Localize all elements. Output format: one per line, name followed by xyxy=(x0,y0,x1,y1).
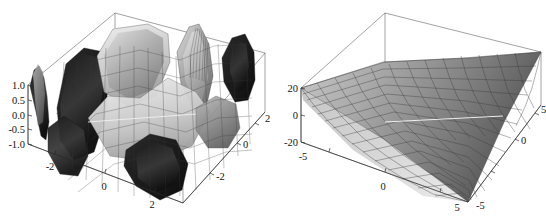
left-z-tick-4: -0.5 xyxy=(8,124,25,135)
right-z-tick-1: 20 xyxy=(288,83,299,94)
left-plot-z-axis xyxy=(28,85,32,145)
left-x-tick-3: 2 xyxy=(149,199,154,210)
right-y-tick-1: 5 xyxy=(541,104,546,115)
left-y-tick-2: 0 xyxy=(243,139,248,150)
figure-container: 1.0 0.5 0.0 -0.5 -1.0 -2 0 2 xyxy=(0,0,546,216)
right-surface-plot: 20 0 -20 -5 0 5 xyxy=(273,0,546,216)
right-y-tick-2: 0 xyxy=(521,135,526,146)
right-x-tick-2: 0 xyxy=(380,181,385,192)
right-x-tick-1: -5 xyxy=(299,151,308,162)
left-z-tick-3: 0.0 xyxy=(12,110,25,121)
right-y-tick-3: -5 xyxy=(476,200,485,211)
left-plot-svg: 1.0 0.5 0.0 -0.5 -1.0 -2 0 2 xyxy=(0,0,273,216)
left-z-tick-2: 0.5 xyxy=(12,95,25,106)
left-z-tick-5: -1.0 xyxy=(8,139,25,150)
left-x-tick-2: 0 xyxy=(101,181,106,192)
right-z-tick-3: -20 xyxy=(284,137,298,148)
left-y-tick-3: -2 xyxy=(216,171,225,182)
left-x-tick-1: -2 xyxy=(46,161,55,172)
left-surface-plot: 1.0 0.5 0.0 -0.5 -1.0 -2 0 2 xyxy=(0,0,273,216)
right-x-tick-3: 5 xyxy=(454,202,459,213)
right-plot-svg: 20 0 -20 -5 0 5 xyxy=(273,0,546,216)
left-y-tick-1: 2 xyxy=(265,113,270,124)
right-surface-body xyxy=(301,52,541,202)
left-z-tick-1: 1.0 xyxy=(12,80,25,91)
right-z-tick-2: 0 xyxy=(293,110,298,121)
